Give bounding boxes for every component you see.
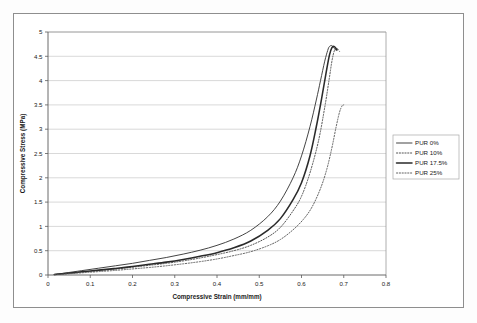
- x-tick-label-1: 0.1: [86, 280, 95, 287]
- x-tick-label-0: 0: [46, 280, 50, 287]
- figure-frame: 00.511.522.533.544.5500.10.20.30.40.50.6…: [13, 13, 464, 308]
- legend-label-1: PUR 10%: [415, 149, 443, 156]
- y-axis-title: Compressive Stress (MPa): [19, 114, 27, 193]
- x-tick-label-4: 0.4: [213, 280, 222, 287]
- legend-label-0: PUR 0%: [415, 139, 439, 146]
- x-tick-label-2: 0.2: [128, 280, 137, 287]
- y-tick-label-4: 2: [39, 174, 43, 181]
- y-tick-label-9: 4.5: [34, 53, 43, 60]
- y-tick-label-3: 1.5: [34, 198, 43, 205]
- x-tick-label-5: 0.5: [255, 280, 264, 287]
- x-tick-label-7: 0.7: [340, 280, 349, 287]
- y-tick-label-8: 4: [39, 77, 43, 84]
- y-tick-label-7: 3.5: [34, 101, 43, 108]
- legend-label-3: PUR 25%: [415, 169, 443, 176]
- y-tick-label-10: 5: [39, 28, 43, 35]
- y-tick-label-1: 0.5: [34, 247, 43, 254]
- legend-label-2: PUR 17.5%: [415, 159, 448, 166]
- x-tick-label-6: 0.6: [297, 280, 306, 287]
- x-axis-title: Compressive Strain (mm/mm): [172, 293, 261, 301]
- y-tick-label-0: 0: [39, 271, 43, 278]
- y-tick-label-6: 3: [39, 125, 43, 132]
- y-tick-label-5: 2.5: [34, 150, 43, 157]
- chart-canvas: 00.511.522.533.544.5500.10.20.30.40.50.6…: [14, 14, 463, 307]
- x-tick-label-8: 0.8: [382, 280, 391, 287]
- x-tick-label-3: 0.3: [171, 280, 180, 287]
- scanned-page: 00.511.522.533.544.5500.10.20.30.40.50.6…: [0, 0, 477, 323]
- y-tick-label-2: 1: [39, 223, 43, 230]
